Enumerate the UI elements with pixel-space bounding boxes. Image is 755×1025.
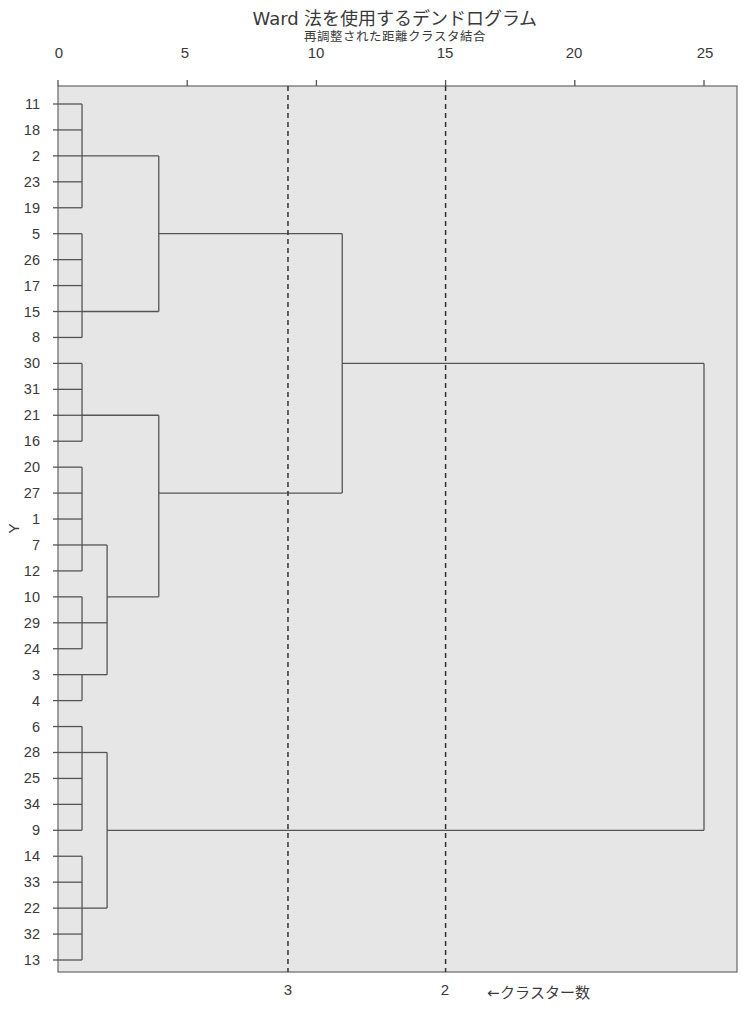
row-label: 14 [0, 848, 40, 864]
row-label: 13 [0, 952, 40, 968]
row-label: 2 [0, 148, 40, 164]
dendrogram-plot [0, 0, 755, 1025]
row-label: 30 [0, 355, 40, 371]
row-label: 10 [0, 589, 40, 605]
row-label: 6 [0, 719, 40, 735]
row-label: 19 [0, 200, 40, 216]
row-label: 33 [0, 874, 40, 890]
row-label: 34 [0, 796, 40, 812]
row-label: 15 [0, 304, 40, 320]
row-label: 18 [0, 122, 40, 138]
row-label: 32 [0, 926, 40, 942]
row-label: 28 [0, 744, 40, 760]
row-label: 12 [0, 563, 40, 579]
row-label: 25 [0, 770, 40, 786]
row-label: 20 [0, 459, 40, 475]
row-label: 17 [0, 278, 40, 294]
row-label: 9 [0, 822, 40, 838]
cut-label-3-clusters: 3 [284, 981, 292, 998]
row-label: 11 [0, 96, 40, 112]
cut-label-2-clusters: 2 [441, 981, 449, 998]
row-label: 21 [0, 407, 40, 423]
row-label: 24 [0, 641, 40, 657]
row-label: 4 [0, 693, 40, 709]
row-label: 27 [0, 485, 40, 501]
row-label: 31 [0, 381, 40, 397]
plot-area [58, 86, 737, 972]
row-label: 23 [0, 174, 40, 190]
row-label: 1 [0, 511, 40, 527]
row-label: 29 [0, 615, 40, 631]
row-label: 5 [0, 226, 40, 242]
row-label: 3 [0, 667, 40, 683]
row-label: 26 [0, 252, 40, 268]
row-label: 16 [0, 433, 40, 449]
row-label: 22 [0, 900, 40, 916]
row-label: 7 [0, 537, 40, 553]
cluster-count-caption: ←クラスター数 [487, 981, 590, 1002]
row-label: 8 [0, 329, 40, 345]
